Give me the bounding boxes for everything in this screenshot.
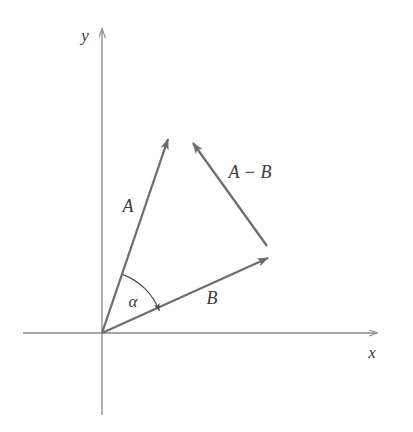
vector-a-minus-b-label: A − B [228,162,272,182]
y-axis-label: y [79,26,89,45]
x-axis-label: x [367,343,376,362]
vector-a-minus-b-group [193,143,267,246]
axes-group [23,29,377,415]
vector-b-shaft [102,258,268,333]
vector-figure: x y A B A − B α [0,0,413,432]
vector-b-group [102,258,268,333]
vector-diagram-canvas: x y A B A − B α [0,0,413,432]
vector-a-label: A [122,196,135,216]
angle-alpha-label: α [129,292,139,311]
vector-a-minus-b-shaft [193,143,267,246]
vector-b-label: B [207,288,218,308]
